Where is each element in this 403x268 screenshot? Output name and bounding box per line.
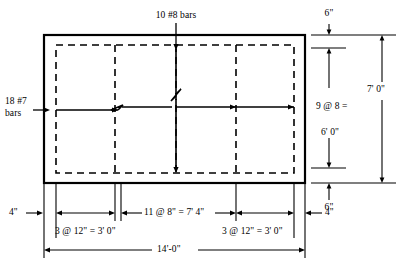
bottom-dim-overall-arrow-r <box>299 248 305 253</box>
bottom-dim-left-group-arrow-r <box>109 211 115 216</box>
left-leader-arrowhead <box>44 107 50 112</box>
right-dim-6in-top-arrow <box>327 30 332 36</box>
right-spacing-label-line1: 9 @ 8 = <box>315 101 348 112</box>
right-dim-overall-arrow-bottom <box>380 178 385 184</box>
right-dim-spacing-arrow-down <box>327 163 332 169</box>
right-top-cover-label: 6" <box>313 8 345 19</box>
right-spacing-label-line2: 6' 0" <box>320 127 340 138</box>
bottom-dim-right-group-arrow-r <box>288 211 294 216</box>
bottom-right-cover-label: 4" <box>325 207 334 218</box>
left-bars-label-line2: bars <box>5 108 21 119</box>
bottom-right-group-label: 3 @ 12" = 3' 0" <box>222 226 283 237</box>
bottom-left-group-label: 3 @ 12" = 3' 0" <box>55 226 116 237</box>
horizontal-bar-arrowhead-2 <box>230 104 236 109</box>
bar-cage-dashed-rect <box>56 45 294 173</box>
footing-outline <box>44 35 305 183</box>
top-bars-label: 10 #8 bars <box>140 10 212 21</box>
bottom-overall-label: 14'-0" <box>156 244 182 255</box>
right-overall-label: 7' 0" <box>366 84 386 95</box>
horizontal-bar-arrowhead-3 <box>288 104 294 109</box>
bottom-dim-4in-left-arrow <box>37 211 43 216</box>
bottom-middle-group-label: 11 @ 8" = 7' 4" <box>143 207 205 218</box>
vertical-bar-arrowhead-bottom <box>173 167 178 173</box>
figure-root: 10 #8 bars 18 #7 bars 6" 9 @ 8 = 6' 0" 6… <box>0 0 403 268</box>
bottom-dim-mid-group-arrow-r <box>230 211 236 216</box>
bottom-left-cover-label: 4" <box>9 207 18 218</box>
left-bars-label-line1: 18 #7 <box>5 96 27 107</box>
